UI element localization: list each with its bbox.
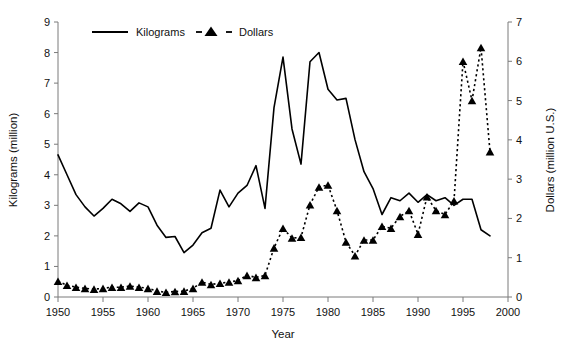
y-axis-right-ticklabel: 5 — [516, 95, 522, 107]
x-axis-ticklabel: 1955 — [91, 306, 115, 318]
y-axis-left-ticklabel: 6 — [44, 108, 50, 120]
y-axis-right-title: Dollars (million U.S.) — [544, 107, 556, 212]
chart-figure: 0123456789 01234567 19501955196019651970… — [0, 0, 571, 352]
chart-background — [0, 0, 571, 352]
legend-label-dollars: Dollars — [239, 26, 274, 38]
x-axis-title: Year — [271, 328, 294, 340]
x-axis-ticklabel: 1970 — [226, 306, 250, 318]
x-axis-ticklabel: 1965 — [181, 306, 205, 318]
y-axis-right-ticklabel: 1 — [516, 252, 522, 264]
y-axis-left-ticklabel: 0 — [44, 291, 50, 303]
y-axis-left-ticklabel: 1 — [44, 260, 50, 272]
y-axis-left-ticklabel: 2 — [44, 230, 50, 242]
x-axis-ticklabel: 1990 — [406, 306, 430, 318]
x-axis-ticklabel: 1995 — [451, 306, 475, 318]
y-axis-left-ticklabel: 3 — [44, 199, 50, 211]
y-axis-left-ticklabel: 7 — [44, 77, 50, 89]
x-axis-ticklabel: 1980 — [316, 306, 340, 318]
y-axis-left-title: Kilograms (million) — [7, 113, 19, 208]
x-axis-ticklabel: 1950 — [46, 306, 70, 318]
x-axis-ticklabel: 2000 — [496, 306, 520, 318]
y-axis-right-ticklabel: 3 — [516, 173, 522, 185]
y-axis-right-ticklabel: 2 — [516, 212, 522, 224]
x-axis-ticklabel: 1985 — [361, 306, 385, 318]
legend-label-kilograms: Kilograms — [136, 26, 185, 38]
y-axis-left-ticklabel: 9 — [44, 16, 50, 28]
y-axis-left-ticklabel: 5 — [44, 138, 50, 150]
x-axis-ticklabel: 1975 — [271, 306, 295, 318]
chart-svg: 0123456789 01234567 19501955196019651970… — [0, 0, 571, 352]
y-axis-right-ticklabel: 7 — [516, 16, 522, 28]
y-axis-left-ticklabel: 8 — [44, 47, 50, 59]
y-axis-left-ticklabel: 4 — [44, 169, 50, 181]
y-axis-right-ticklabel: 6 — [516, 55, 522, 67]
y-axis-right-ticklabel: 4 — [516, 134, 522, 146]
y-axis-right-ticklabel: 0 — [516, 291, 522, 303]
x-axis-ticklabel: 1960 — [136, 306, 160, 318]
